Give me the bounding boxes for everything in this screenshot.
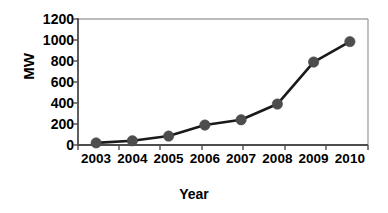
data-point-markers bbox=[91, 36, 355, 148]
x-axis-title: Year bbox=[0, 186, 388, 202]
data-point bbox=[163, 131, 173, 141]
data-point bbox=[272, 99, 282, 109]
data-point bbox=[200, 120, 210, 130]
data-point bbox=[236, 115, 246, 125]
line-chart: MW 1200 1000 800 600 400 200 0 bbox=[0, 0, 388, 213]
x-tick-label: 2010 bbox=[327, 152, 373, 166]
data-series-line bbox=[96, 42, 350, 143]
plot-border bbox=[78, 19, 368, 145]
plot-area bbox=[0, 0, 388, 213]
data-point bbox=[308, 57, 318, 67]
data-point bbox=[127, 136, 137, 146]
data-point bbox=[345, 36, 355, 46]
data-point bbox=[91, 138, 101, 148]
